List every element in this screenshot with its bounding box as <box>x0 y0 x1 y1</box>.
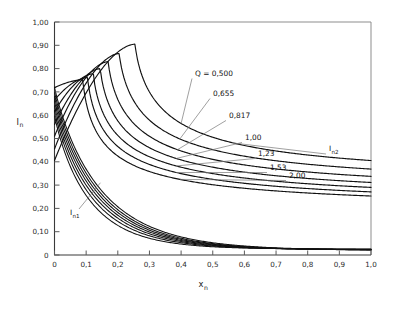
y-axis-tick-label: 0,70 <box>32 88 48 97</box>
curve-label-0p5: Q = 0,500 <box>195 69 233 78</box>
curve-label-0p655: 0,655 <box>213 89 234 98</box>
y-axis-tick-label: 0,50 <box>32 134 48 143</box>
x-axis-tick-label: 0,6 <box>239 260 251 269</box>
curve-in1-q-1 <box>55 101 372 249</box>
curve-annotations-group: Q = 0,5000,6550,8171,001,231,532,00In2In… <box>70 69 339 219</box>
y-axis-tick-label: 0,10 <box>32 227 48 236</box>
x-axis-tick-label: 0,3 <box>144 260 155 269</box>
x-axis-tick-label: 0,7 <box>270 260 281 269</box>
x-axis-tick-label: 0,5 <box>207 260 218 269</box>
axis-ticks-group <box>55 22 372 255</box>
y-axis-tick-label: 0,30 <box>32 181 48 190</box>
annotation-leader-line <box>180 179 286 180</box>
y-axis-tick-label: 0 <box>44 251 49 260</box>
chart-canvas: 00,10,20,30,40,50,60,70,80,91,000,100,20… <box>0 0 395 312</box>
x-axis-tick-label: 0,9 <box>334 260 346 269</box>
y-axis-tick-label: 0,60 <box>32 111 48 120</box>
annotation-leader-line <box>181 79 192 124</box>
annotation-leader-line-in2 <box>233 143 326 154</box>
x-axis-tick-label: 1,0 <box>365 260 377 269</box>
figure-container: 00,10,20,30,40,50,60,70,80,91,000,100,20… <box>0 0 395 312</box>
y-axis-tick-label: 0,40 <box>32 157 48 166</box>
y-axis-tick-label: 0,20 <box>32 204 48 213</box>
x-axis-tick-label: 0,8 <box>302 260 314 269</box>
curve-label-2: 2,00 <box>289 171 306 180</box>
curve-in1-q-2 <box>55 115 372 249</box>
x-axis-title: xn <box>199 279 208 291</box>
x-axis-tick-label: 0,4 <box>175 260 187 269</box>
curve-in2-q-0p5 <box>55 44 372 160</box>
x-axis-tick-label: 0,1 <box>80 260 91 269</box>
curve-label-1: 1,00 <box>245 133 262 142</box>
curve-label-0p817: 0,817 <box>229 111 250 120</box>
curve-label-1p23: 1,23 <box>258 149 275 158</box>
plot-axes <box>55 22 372 255</box>
plot-frame <box>55 22 372 255</box>
family-label-in2: In2 <box>329 144 339 155</box>
curve-in1-q-0p655 <box>55 92 372 250</box>
y-axis-tick-label: 0,80 <box>32 64 48 73</box>
x-axis-tick-label: 0,2 <box>112 260 123 269</box>
family-label-in1: In1 <box>70 208 80 219</box>
y-axis-tick-label: 1,00 <box>32 18 48 27</box>
x-axis-tick-label: 0 <box>52 260 57 269</box>
y-axis-tick-label: 0,90 <box>32 41 48 50</box>
plot-frame-top-right <box>55 22 372 255</box>
curve-label-1p53: 1,53 <box>270 163 287 172</box>
y-axis-title: In <box>17 117 24 129</box>
axis-tick-labels-group: 00,10,20,30,40,50,60,70,80,91,000,100,20… <box>32 18 377 269</box>
